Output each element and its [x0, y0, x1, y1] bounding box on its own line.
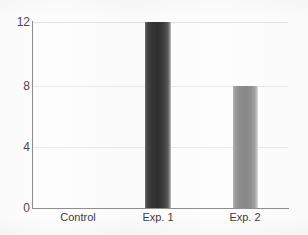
- chart-canvas: 12 8 4 0 Control Exp. 1 Exp. 2: [0, 0, 308, 235]
- x-tick-label-exp-1: Exp. 1: [142, 212, 173, 223]
- y-axis-line: [32, 21, 33, 209]
- y-tick-label-12: 12: [4, 16, 30, 28]
- x-axis-line: [32, 208, 289, 209]
- x-tick-label-exp-2: Exp. 2: [229, 212, 260, 223]
- x-tick-label-control: Control: [60, 212, 95, 223]
- y-tick-label-8: 8: [4, 80, 30, 92]
- y-tick-label-0: 0: [4, 202, 30, 214]
- y-axis-tick-labels: 12 8 4 0: [0, 0, 30, 235]
- y-tick-label-4: 4: [4, 141, 30, 153]
- bar-exp-2[interactable]: [233, 86, 258, 208]
- plot-area: [32, 22, 288, 208]
- bar-exp-1[interactable]: [145, 22, 171, 208]
